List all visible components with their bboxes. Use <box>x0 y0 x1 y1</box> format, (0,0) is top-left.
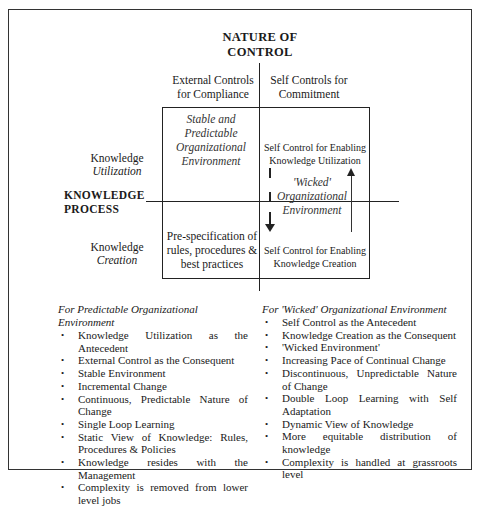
list-title: For 'Wicked' Organizational Environment <box>262 303 457 316</box>
list-item: Stable Environment <box>58 367 248 380</box>
quadrant-text: Environment <box>165 154 257 168</box>
list-item: Static View of Knowledge: Rules, Procedu… <box>58 431 248 456</box>
row-axis-title-line: KNOWLEDGE <box>64 188 154 202</box>
quadrant-text: rules, procedures & <box>166 243 258 257</box>
column-axis-title: NATURE OF CONTROL <box>200 30 320 60</box>
quadrant-text: Organizational <box>165 140 257 154</box>
row-label-knowledge-creation: Knowledge Creation <box>82 241 152 267</box>
row-axis-title-line: PROCESS <box>64 202 154 216</box>
list-item: Increasing Pace of Continual Change <box>262 354 457 367</box>
down-arrow-icon <box>265 224 275 232</box>
list-item: 'Wicked Environment' <box>262 341 457 354</box>
row-label-line: Knowledge <box>82 241 152 254</box>
up-arrow-icon <box>347 168 355 176</box>
row-label-line: Utilization <box>82 165 152 178</box>
list-item: Knowledge Utilization as the Antecedent <box>58 329 248 354</box>
predictable-environment-list: For Predictable Organizational Environme… <box>58 303 248 507</box>
wicked-environment-label: 'Wicked' Organizational Environment <box>272 175 352 217</box>
wicked-label-line: 'Wicked' <box>272 175 352 189</box>
down-arrow-segment <box>269 192 271 202</box>
list-item: Continuous, Predictable Nature of Change <box>58 393 248 418</box>
list-item: Double Loop Learning with Self Adaptatio… <box>262 392 457 417</box>
list-title: For Predictable Organizational Environme… <box>58 303 248 329</box>
list-item: Knowledge Creation as the Consequent <box>262 329 457 342</box>
quadrant-text: Knowledge Utilization <box>260 154 370 167</box>
quadrant-bottom-right: Self Control for Enabling Knowledge Crea… <box>260 244 370 270</box>
wicked-label-line: Organizational <box>272 189 352 203</box>
title-line-1: NATURE OF <box>200 30 320 45</box>
quadrant-text: Self Control for Enabling <box>260 244 370 257</box>
list-item: Self Control as the Antecedent <box>262 316 457 329</box>
list-item: Dynamic View of Knowledge <box>262 418 457 431</box>
quadrant-text: Knowledge Creation <box>260 257 370 270</box>
list-item: Complexity is removed from lower level j… <box>58 481 248 506</box>
quadrant-top-right: Self Control for Enabling Knowledge Util… <box>260 141 370 167</box>
row-axis-title: KNOWLEDGE PROCESS <box>64 188 154 216</box>
row-label-line: Knowledge <box>82 152 152 165</box>
list-item: More equitable distribution of knowledge <box>262 430 457 455</box>
column-header-self-controls: Self Controls for Commitment <box>264 73 354 101</box>
quadrant-text: best practices <box>166 257 258 271</box>
wicked-label-line: Environment <box>272 203 352 217</box>
wicked-environment-list: For 'Wicked' Organizational Environment … <box>262 303 457 481</box>
up-arrow-shaft <box>351 175 352 232</box>
down-arrow-segment <box>269 168 271 178</box>
title-line-2: CONTROL <box>200 45 320 60</box>
column-header-line: for Compliance <box>170 87 256 101</box>
list-item: Discontinuous, Unpredictable Nature of C… <box>262 367 457 392</box>
quadrant-bottom-left: Pre-specification of rules, procedures &… <box>166 229 258 271</box>
quadrant-top-left: Stable and Predictable Organizational En… <box>165 112 257 168</box>
quadrant-text: Pre-specification of <box>166 229 258 243</box>
list-item: Single Loop Learning <box>58 418 248 431</box>
column-header-external-controls: External Controls for Compliance <box>170 73 256 101</box>
row-label-line: Creation <box>82 254 152 267</box>
column-header-line: Commitment <box>264 87 354 101</box>
quadrant-text: Self Control for Enabling <box>260 141 370 154</box>
row-label-knowledge-utilization: Knowledge Utilization <box>82 152 152 178</box>
list-item: Complexity is handled at grassroots leve… <box>262 456 457 481</box>
column-header-line: Self Controls for <box>264 73 354 87</box>
list-item: Incremental Change <box>58 380 248 393</box>
list-item: External Control as the Consequent <box>58 354 248 367</box>
quadrant-text: Stable and <box>165 112 257 126</box>
quadrant-text: Predictable <box>165 126 257 140</box>
column-header-line: External Controls <box>170 73 256 87</box>
list-item: Knowledge resides with the Management <box>58 456 248 481</box>
